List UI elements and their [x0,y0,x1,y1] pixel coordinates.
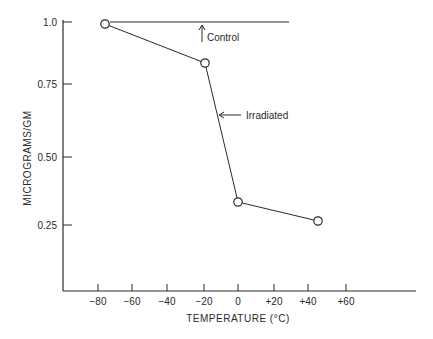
control-arrow-icon [199,25,205,42]
data-point [234,198,242,206]
y-ticks [63,22,72,225]
x-tick-labels: −80 −60 −40 −20 0 +20 +40 +60 [90,296,355,307]
y-tick-1: 1.0 [43,17,57,28]
data-point [314,217,322,225]
y-tick-0.75: 0.75 [38,79,58,90]
data-point [101,20,109,28]
x-ticks [98,284,346,291]
x-tick-minus40: −40 [159,296,176,307]
x-tick-0: 0 [235,296,241,307]
y-tick-0.50: 0.50 [38,152,58,163]
x-tick-minus60: −60 [124,296,141,307]
x-tick-plus40: +40 [300,296,317,307]
x-tick-plus20: +20 [266,296,283,307]
x-axis-title: TEMPERATURE (°C) [186,313,289,324]
irradiated-line [105,24,318,221]
irradiated-label: Irradiated [246,110,288,121]
y-axis-title: MICROGRAMS/GM [22,110,33,205]
control-label: Control [207,32,239,43]
x-tick-plus60: +60 [338,296,355,307]
x-tick-minus80: −80 [90,296,107,307]
x-tick-minus20: −20 [196,296,213,307]
chart-canvas: 1.0 0.75 0.50 0.25 −80 −60 −40 −20 0 +20… [0,0,433,339]
y-tick-labels: 1.0 0.75 0.50 0.25 [38,17,58,231]
irradiated-arrow-icon [219,112,241,118]
data-point [201,59,209,67]
irradiated-markers [101,20,322,225]
y-tick-0.25: 0.25 [38,220,58,231]
